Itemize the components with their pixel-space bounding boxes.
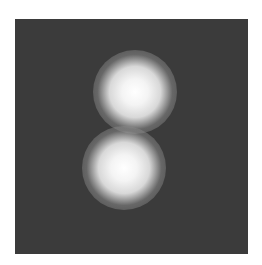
lower-bright-spot xyxy=(82,126,166,210)
dark-image-frame xyxy=(15,19,248,254)
upper-bright-spot xyxy=(93,50,177,134)
